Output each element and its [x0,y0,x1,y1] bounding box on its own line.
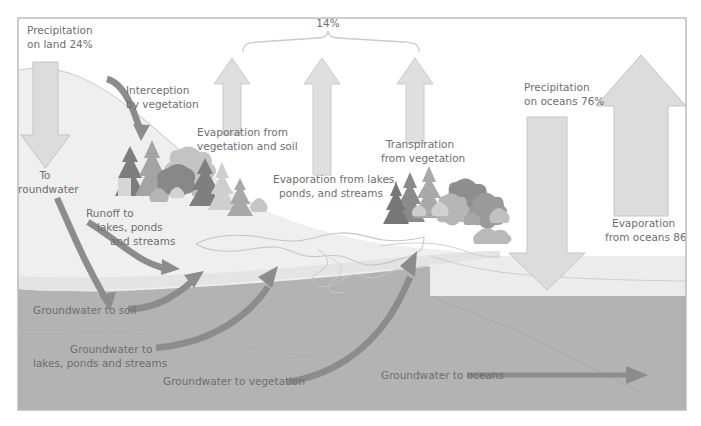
groundwater-to-oceans-label: Groundwater to oceans [381,369,504,381]
runoff-label-line3: and streams [110,235,175,247]
groundwater-to-soil-label: Groundwater to soil [33,304,136,316]
interception-label-line2: by vegetation [126,98,199,110]
evaporation-vegetation-soil-label-line1: Evaporation from [197,126,288,138]
to-groundwater-label-line2: groundwater [11,183,79,195]
transpiration-label-line1: Transpiration [385,138,454,150]
ocean-floor [430,296,686,410]
groundwater-to-lakes-label-line1: Groundwater to [70,343,152,355]
transpiration-label-line2: from vegetation [381,152,465,164]
evaporation-vegetation-soil-label-line2: vegetation and soil [197,140,298,152]
precipitation-on-oceans-label-line2: on oceans 76% [524,95,604,107]
shrub [118,178,131,196]
precipitation-on-oceans-label-line1: Precipitation [524,81,590,93]
evaporation-from-oceans-label-line2: from oceans 86% [605,231,697,243]
evaporation-from-oceans-label-line1: Evaporation [612,217,675,229]
to-groundwater-label-line1: To [38,169,50,181]
groundwater-to-lakes-label-line2: lakes, ponds and streams [33,357,167,369]
runoff-label-line2: lakes, ponds [97,221,163,233]
evaporation-lakes-label-line1: Evaporation from lakes, [273,173,398,185]
water-cycle-figure: Precipitation on land 24% To groundwater… [0,0,701,426]
water-cycle-diagram: Precipitation on land 24% To groundwater… [0,0,701,426]
precipitation-on-land-label-line2: on land 24% [27,38,93,50]
precipitation-on-land-label-line1: Precipitation [27,24,93,36]
interception-label-line1: Interception [126,84,189,96]
evaporation-lakes-label-line2: ponds, and streams [279,187,383,199]
runoff-label-line1: Runoff to [86,207,134,219]
groundwater-to-vegetation-label: Groundwater to vegetation [163,375,305,387]
bracket-percent-label: 14% [316,17,339,29]
